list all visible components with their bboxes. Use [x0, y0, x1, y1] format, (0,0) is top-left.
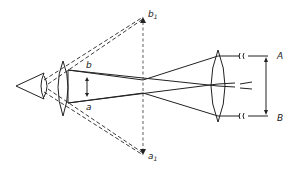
label-b1: b1	[148, 9, 158, 20]
virtual-image-arrow	[140, 17, 146, 155]
virtual-image-rays	[44, 17, 143, 155]
label-a1-sub: 1	[154, 155, 158, 162]
label-b1-sub: 1	[154, 13, 158, 20]
eye-icon	[16, 73, 47, 99]
label-b: b	[86, 60, 92, 70]
eyepiece-lens	[58, 61, 68, 116]
label-A: A	[276, 51, 283, 61]
label-a: a	[86, 102, 92, 112]
optical-diagram: b a b1 a1 A B	[0, 0, 294, 171]
intermediate-image-arrow	[85, 77, 89, 97]
label-a1: a1	[148, 151, 157, 162]
label-B: B	[277, 113, 283, 123]
object-arrow	[264, 57, 268, 115]
solid-rays	[68, 56, 235, 116]
